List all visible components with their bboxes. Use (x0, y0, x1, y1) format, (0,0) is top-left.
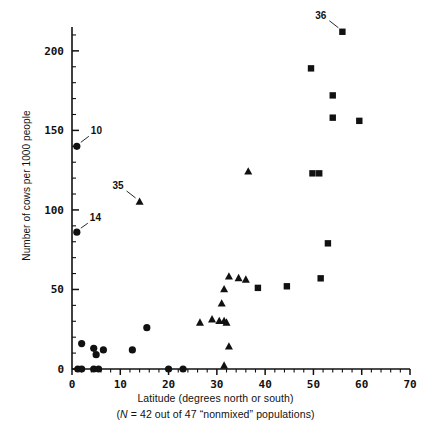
data-point-circle (95, 365, 102, 372)
x-tick-label: 0 (69, 378, 76, 391)
x-tick-label: 10 (114, 378, 127, 391)
x-tick-label: 50 (307, 378, 320, 391)
data-point-triangle (244, 167, 252, 174)
data-point-square (255, 285, 261, 291)
data-point-circle (73, 143, 80, 150)
sample-size-caption: (N = 42 out of 47 “nonmixed” populations… (0, 408, 431, 420)
data-point-triangle (218, 299, 226, 306)
data-point-triangle (225, 272, 233, 279)
data-markers (73, 29, 362, 373)
data-point-triangle (196, 318, 204, 325)
scatter-plot-figure: 010203040506070050100150200 10143536 Num… (0, 0, 431, 440)
data-point-circle (165, 365, 172, 372)
data-point-triangle (242, 275, 250, 282)
data-point-square (330, 92, 336, 98)
annotation-label: 35 (112, 180, 124, 191)
data-point-circle (100, 346, 107, 353)
x-tick-label: 30 (210, 378, 223, 391)
annotation-label: 10 (91, 125, 103, 136)
data-point-triangle (220, 285, 228, 292)
data-point-square (330, 114, 336, 120)
data-point-square (316, 170, 322, 176)
x-tick-label: 40 (259, 378, 272, 391)
data-point-square (325, 240, 331, 246)
y-tick-label: 200 (44, 45, 64, 58)
data-point-square (356, 118, 362, 124)
caption-block: Latitude (degrees north or south) (N = 4… (0, 392, 431, 420)
caption-n-symbol: N (120, 408, 128, 420)
x-tick-label: 60 (355, 378, 368, 391)
data-point-circle (78, 340, 85, 347)
data-point-circle (73, 229, 80, 236)
data-point-square (339, 29, 345, 35)
tick-marks (72, 35, 410, 375)
data-point-triangle (208, 315, 216, 322)
annotation-leader-line (81, 223, 88, 228)
data-point-square (317, 275, 323, 281)
data-point-triangle (220, 361, 228, 368)
x-tick-label: 20 (162, 378, 175, 391)
data-point-circle (93, 351, 100, 358)
annotation-leader-line (329, 21, 338, 28)
y-tick-label: 0 (57, 363, 64, 376)
data-point-square (309, 170, 315, 176)
caption-rest: = 42 out of 47 “nonmixed” populations) (128, 408, 315, 420)
data-point-triangle (136, 197, 144, 204)
data-point-circle (90, 345, 97, 352)
data-point-triangle (235, 274, 243, 281)
annotation-leader-line (127, 191, 136, 198)
data-point-circle (129, 346, 136, 353)
data-point-circle (78, 365, 85, 372)
data-point-square (308, 65, 314, 71)
y-tick-label: 50 (51, 283, 64, 296)
x-tick-label: 70 (403, 378, 416, 391)
data-point-square (284, 283, 290, 289)
annotation-label: 14 (90, 212, 102, 223)
y-tick-label: 100 (44, 204, 64, 217)
annotation-leader-line (81, 136, 89, 142)
axes (72, 27, 410, 369)
y-tick-label: 150 (44, 124, 64, 137)
point-annotations: 10143536 (81, 10, 339, 228)
annotation-label: 36 (315, 10, 327, 21)
data-point-triangle (225, 342, 233, 349)
data-point-circle (143, 324, 150, 331)
data-point-circle (179, 365, 186, 372)
y-axis-label: Number of cows per 1000 people (21, 76, 32, 296)
x-axis-label: Latitude (degrees north or south) (0, 392, 431, 404)
plot-canvas: 010203040506070050100150200 10143536 (0, 0, 431, 440)
